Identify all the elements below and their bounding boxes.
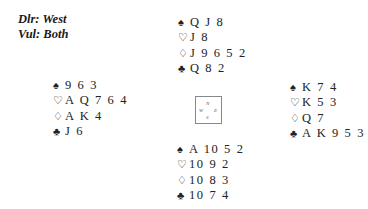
south-hand: ♠A 10 5 2 ♡10 9 2 ♢10 8 3 ♣10 7 4	[177, 142, 245, 203]
west-diamonds: ♢A K 4	[53, 109, 128, 124]
diamond-icon: ♢	[178, 46, 189, 61]
club-icon: ♣	[53, 124, 64, 139]
west-spades: ♠9 6 3	[53, 78, 128, 93]
south-diamonds: ♢10 8 3	[177, 173, 245, 188]
north-hearts: ♡J 8	[178, 30, 247, 45]
south-clubs: ♣10 7 4	[177, 188, 245, 203]
south-spades: ♠A 10 5 2	[177, 142, 245, 157]
heart-icon: ♡	[177, 157, 188, 172]
east-diamonds: ♢Q 7	[290, 111, 365, 126]
compass-north: N	[206, 101, 209, 106]
spade-icon: ♠	[290, 80, 301, 95]
compass-west: W	[199, 108, 203, 113]
vulnerability-label: Vul: Both	[18, 27, 68, 42]
north-diamonds: ♢J 9 6 5 2	[178, 46, 247, 61]
west-hand: ♠9 6 3 ♡A Q 7 6 4 ♢A K 4 ♣J 6	[53, 78, 128, 139]
heart-icon: ♡	[290, 95, 301, 110]
north-spades: ♠Q J 8	[178, 15, 247, 30]
compass-box: N W E S	[195, 96, 222, 124]
heart-icon: ♡	[53, 93, 64, 108]
compass-south: S	[206, 115, 209, 120]
compass-east: E	[214, 108, 217, 113]
diamond-icon: ♢	[53, 109, 64, 124]
dealer-label: Dlr: West	[18, 12, 68, 27]
north-clubs: ♣Q 8 2	[178, 61, 247, 76]
club-icon: ♣	[178, 61, 189, 76]
club-icon: ♣	[177, 188, 188, 203]
diamond-icon: ♢	[177, 173, 188, 188]
spade-icon: ♠	[178, 15, 189, 30]
club-icon: ♣	[290, 126, 301, 141]
deal-info: Dlr: West Vul: Both	[18, 12, 68, 42]
diamond-icon: ♢	[290, 111, 301, 126]
west-clubs: ♣J 6	[53, 124, 128, 139]
heart-icon: ♡	[178, 30, 189, 45]
east-hand: ♠K 7 4 ♡K 5 3 ♢Q 7 ♣A K 9 5 3	[290, 80, 365, 141]
north-hand: ♠Q J 8 ♡J 8 ♢J 9 6 5 2 ♣Q 8 2	[178, 15, 247, 76]
spade-icon: ♠	[177, 142, 188, 157]
south-hearts: ♡10 9 2	[177, 157, 245, 172]
west-hearts: ♡A Q 7 6 4	[53, 93, 128, 108]
east-clubs: ♣A K 9 5 3	[290, 126, 365, 141]
east-spades: ♠K 7 4	[290, 80, 365, 95]
east-hearts: ♡K 5 3	[290, 95, 365, 110]
spade-icon: ♠	[53, 78, 64, 93]
